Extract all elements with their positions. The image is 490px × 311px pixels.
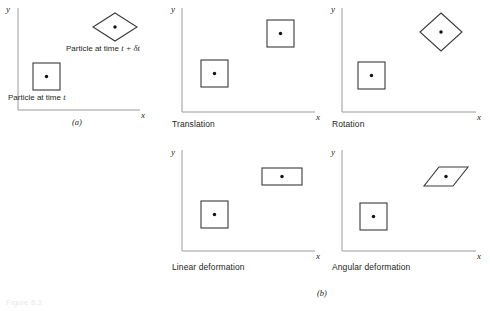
label-particle-final-symbol: t + δt bbox=[121, 43, 140, 53]
panel-translation-caption: Translation bbox=[172, 119, 215, 129]
initial-particle-center-dot bbox=[213, 72, 216, 75]
initial-particle-center-dot bbox=[372, 215, 375, 218]
panel-a: y x Particle at time t + δt Particle at … bbox=[0, 0, 165, 125]
panel-translation-graphic bbox=[168, 0, 326, 128]
bottom-cut-caption: Figure 6.3 bbox=[0, 300, 490, 311]
label-particle-initial-symbol: t bbox=[63, 92, 65, 102]
y-axis-label: y bbox=[171, 4, 175, 14]
bottom-cut-caption-text: Figure 6.3 bbox=[6, 300, 42, 307]
final-particle-center-dot bbox=[439, 30, 442, 33]
panel-linear-deformation: y x Linear deformation bbox=[168, 145, 326, 285]
initial-particle-center-dot bbox=[45, 75, 48, 78]
y-axis-label: y bbox=[6, 4, 10, 14]
x-axis-label: x bbox=[141, 110, 145, 120]
y-axis-label: y bbox=[171, 147, 175, 157]
final-particle-center-dot bbox=[444, 175, 447, 178]
label-particle-initial: Particle at time t bbox=[8, 92, 66, 102]
label-particle-final-text: Particle at time bbox=[66, 44, 121, 53]
panel-angular-deformation-caption: Angular deformation bbox=[332, 262, 410, 272]
final-particle-center-dot bbox=[279, 32, 282, 35]
panel-rotation: y x Rotation bbox=[328, 0, 488, 140]
x-axis-label: x bbox=[477, 251, 481, 261]
x-axis-label: x bbox=[477, 112, 481, 122]
y-axis-label: y bbox=[331, 4, 335, 14]
label-particle-final: Particle at time t + δt bbox=[66, 43, 140, 53]
panel-translation: y x Translation bbox=[168, 0, 326, 140]
label-particle-initial-text: Particle at time bbox=[8, 93, 63, 102]
y-axis-label: y bbox=[331, 147, 335, 157]
initial-particle-center-dot bbox=[370, 74, 373, 77]
x-axis-label: x bbox=[316, 251, 320, 261]
final-particle-center-dot bbox=[280, 175, 283, 178]
panel-linear-deformation-caption: Linear deformation bbox=[172, 262, 245, 272]
panel-rotation-caption: Rotation bbox=[332, 119, 364, 129]
panel-angular-deformation-graphic bbox=[328, 145, 488, 267]
panel-linear-deformation-graphic bbox=[168, 145, 326, 267]
panel-rotation-graphic bbox=[328, 0, 488, 128]
final-particle-center-dot bbox=[113, 25, 116, 28]
initial-particle-center-dot bbox=[213, 213, 216, 216]
panel-b-letter: (b) bbox=[317, 288, 327, 298]
panel-angular-deformation: y x Angular deformation bbox=[328, 145, 488, 285]
panel-a-graphic bbox=[0, 0, 165, 125]
figure-particle-motion: y x Particle at time t + δt Particle at … bbox=[0, 0, 490, 311]
panel-a-letter: (a) bbox=[72, 117, 82, 127]
x-axis-label: x bbox=[316, 112, 320, 122]
